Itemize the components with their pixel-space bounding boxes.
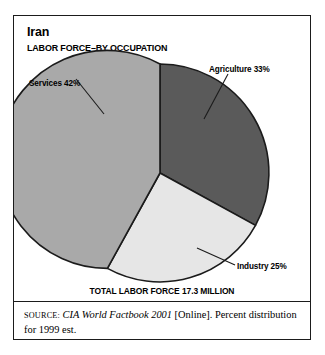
source-note: SOURCE: CIA World Factbook 2001 [Online]… — [24, 308, 300, 336]
pie-chart-plot-area: Services 42% Agriculture 33% Industry 25… — [14, 16, 311, 296]
total-labor-force-text: TOTAL LABOR FORCE 17.3 MILLION — [90, 286, 235, 296]
slice-label-industry: Industry 25% — [237, 261, 287, 271]
source-divider — [14, 301, 310, 302]
total-labor-force-caption: TOTAL LABOR FORCE 17.3 MILLION — [14, 286, 310, 296]
slice-label-services: Services 42% — [29, 78, 80, 88]
source-kicker: SOURCE: — [24, 311, 60, 320]
slice-label-agriculture: Agriculture 33% — [209, 64, 270, 74]
source-publication: CIA World Factbook 2001 — [63, 309, 172, 320]
figure-frame: Iran LABOR FORCE–BY OCCUPATION Services … — [13, 15, 311, 340]
pie-chart-svg — [14, 16, 311, 296]
